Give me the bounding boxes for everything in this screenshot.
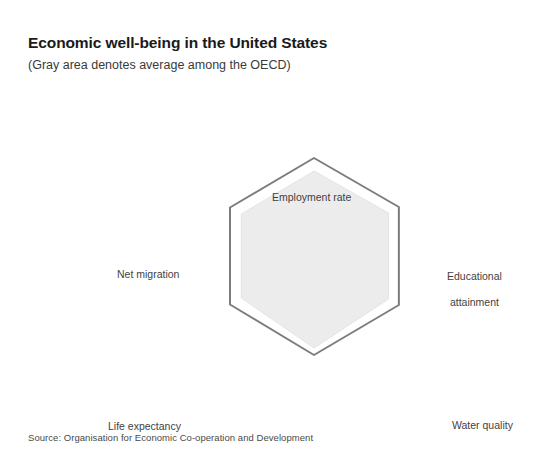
axis-label-line-2: attainment <box>450 296 499 308</box>
radar-series-group <box>230 158 399 355</box>
radar-plot-svg <box>0 92 558 402</box>
chart-subtitle: (Gray area denotes average among the OEC… <box>28 57 528 73</box>
axis-label-water-quality: Water quality <box>452 419 513 432</box>
source-note: Source: Organisation for Economic Co-ope… <box>28 432 313 443</box>
page-title: Economic well-being in the United States <box>28 33 528 52</box>
radar-chart-figure: Economic well-being in the United States… <box>0 0 558 453</box>
title-block: Economic well-being in the United States… <box>28 33 528 74</box>
axis-label-line-1: Educational <box>447 270 502 282</box>
plot-area: Employment rate Educational attainment W… <box>0 92 558 402</box>
axis-label-employment-rate: Employment rate <box>272 191 351 204</box>
axis-label-educational-attainment: Educational attainment <box>447 257 502 310</box>
axis-label-net-migration: Net migration <box>117 268 179 281</box>
